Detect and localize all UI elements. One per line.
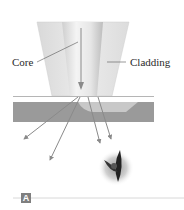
tissue-surface — [13, 96, 154, 122]
panel-label-badge: A — [21, 193, 31, 203]
cladding-label: Cladding — [130, 57, 170, 68]
core-label: Core — [12, 57, 33, 68]
fiber-optic-diagram — [0, 0, 184, 210]
eye-icon — [98, 150, 134, 186]
